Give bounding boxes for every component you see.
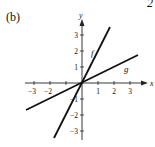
x-axis-arrow-icon (141, 81, 148, 86)
y-tick-labels: 321 −1−2−3 (70, 31, 78, 136)
svg-text:3: 3 (128, 87, 132, 96)
svg-text:−2: −2 (44, 87, 52, 96)
svg-text:−2: −2 (70, 111, 78, 120)
svg-text:−3: −3 (70, 127, 78, 136)
svg-text:2: 2 (74, 47, 78, 56)
svg-text:2: 2 (112, 87, 116, 96)
svg-text:−3: −3 (28, 87, 36, 96)
coordinate-plot: x y −3−2 123 321 −1−2−3 f g (0, 0, 155, 147)
svg-text:3: 3 (74, 31, 78, 40)
svg-text:1: 1 (96, 87, 100, 96)
label-g: g (124, 64, 129, 74)
y-axis-label: y (78, 11, 83, 20)
x-tick-labels: −3−2 123 (28, 87, 132, 96)
y-axis-arrow-icon (80, 19, 85, 26)
x-axis-label: x (149, 79, 154, 88)
svg-text:1: 1 (74, 63, 78, 72)
